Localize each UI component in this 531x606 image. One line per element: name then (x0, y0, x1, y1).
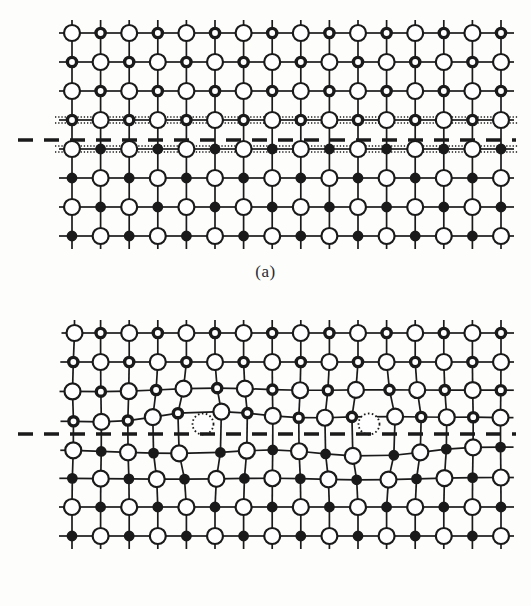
atom-large-open (149, 471, 165, 487)
atom-small-filled (182, 231, 191, 240)
atom-large-open (293, 141, 309, 157)
atom-small-filled (296, 173, 305, 182)
atom-large-open (93, 414, 109, 430)
atom-large-open (293, 325, 309, 341)
atom-small-ring (468, 57, 477, 66)
atom-small-ring (182, 115, 191, 124)
panel-a-caption: (a) (0, 262, 531, 282)
atom-small-filled (97, 447, 106, 456)
atom-large-open (236, 199, 252, 215)
atom-large-open (208, 471, 224, 487)
atom-small-filled (321, 449, 330, 458)
atom-large-open (321, 112, 337, 128)
atom-large-open (64, 499, 80, 515)
atom-small-ring (268, 328, 277, 337)
atom-large-open (264, 354, 280, 370)
atom-small-ring (353, 57, 362, 66)
atom-small-ring (210, 86, 219, 95)
atom-small-filled (268, 445, 277, 454)
atom-large-open (65, 442, 81, 458)
atom-large-open (493, 54, 509, 70)
atom-large-open (348, 382, 364, 398)
atom-large-open (350, 199, 366, 215)
atom-small-ring (96, 28, 105, 37)
atom-large-open (264, 528, 280, 544)
atom-large-open (207, 112, 223, 128)
atom-layer (64, 25, 509, 244)
atom-large-open (121, 83, 137, 99)
atom-small-ring (268, 86, 277, 95)
atom-small-filled (67, 231, 76, 240)
atom-large-open (93, 170, 109, 186)
panel-b: (b) (0, 300, 531, 606)
atom-small-filled (96, 144, 105, 153)
atom-large-open (150, 354, 166, 370)
atom-small-ring (417, 412, 426, 421)
atom-small-ring (152, 385, 161, 394)
atom-small-filled (439, 202, 448, 211)
atom-small-filled (210, 502, 219, 511)
atom-small-filled (239, 531, 248, 540)
vacancy-marker (193, 414, 214, 435)
atom-small-filled (382, 202, 391, 211)
atom-small-filled (268, 202, 277, 211)
atom-large-open (292, 382, 308, 398)
atom-large-open (93, 112, 109, 128)
atom-large-open (264, 170, 280, 186)
atom-large-open (178, 141, 194, 157)
atom-large-open (145, 409, 161, 425)
atom-small-filled (411, 173, 420, 182)
atom-large-open (379, 54, 395, 70)
atom-small-ring (213, 384, 222, 393)
atom-small-filled (439, 144, 448, 153)
atom-large-open (64, 25, 80, 41)
atom-large-open (321, 54, 337, 70)
atom-small-ring (411, 115, 420, 124)
atom-small-filled (411, 231, 420, 240)
atom-large-open (121, 383, 137, 399)
atom-large-open (465, 439, 481, 455)
atom-small-ring (385, 385, 394, 394)
atom-large-open (64, 199, 80, 215)
atom-small-filled (182, 531, 191, 540)
atom-small-filled (325, 502, 334, 511)
atom-small-filled (382, 502, 391, 511)
atom-large-open (387, 409, 403, 425)
atom-large-open (264, 112, 280, 128)
atom-small-ring (382, 28, 391, 37)
atom-small-ring (153, 328, 162, 337)
atom-large-open (121, 325, 137, 341)
atom-small-filled (67, 531, 76, 540)
atom-small-ring (325, 328, 334, 337)
atom-large-open (178, 325, 194, 341)
atom-large-open (439, 409, 455, 425)
atom-large-open (121, 199, 137, 215)
atom-small-ring (153, 86, 162, 95)
atom-small-ring (239, 57, 248, 66)
atom-small-filled (352, 475, 361, 484)
atom-large-open (236, 83, 252, 99)
atom-small-ring (353, 115, 362, 124)
atom-large-open (412, 444, 428, 460)
atom-large-open (492, 410, 508, 426)
atom-small-filled (412, 474, 421, 483)
atom-large-open (436, 470, 452, 486)
atom-large-open (436, 54, 452, 70)
atom-large-open (493, 112, 509, 128)
atom-large-open (178, 25, 194, 41)
atom-small-ring (96, 387, 105, 396)
atom-small-filled (182, 173, 191, 182)
atom-small-filled (239, 173, 248, 182)
atom-small-ring (210, 28, 219, 37)
atom-large-open (293, 499, 309, 515)
atom-large-open (320, 471, 336, 487)
atom-large-open (350, 83, 366, 99)
atom-large-open (93, 354, 109, 370)
atom-small-filled (411, 531, 420, 540)
atom-small-filled (468, 531, 477, 540)
atom-large-open (321, 170, 337, 186)
atom-small-filled (353, 231, 362, 240)
atom-large-open (176, 381, 192, 397)
atom-large-open (464, 325, 480, 341)
atom-large-open (345, 448, 361, 464)
